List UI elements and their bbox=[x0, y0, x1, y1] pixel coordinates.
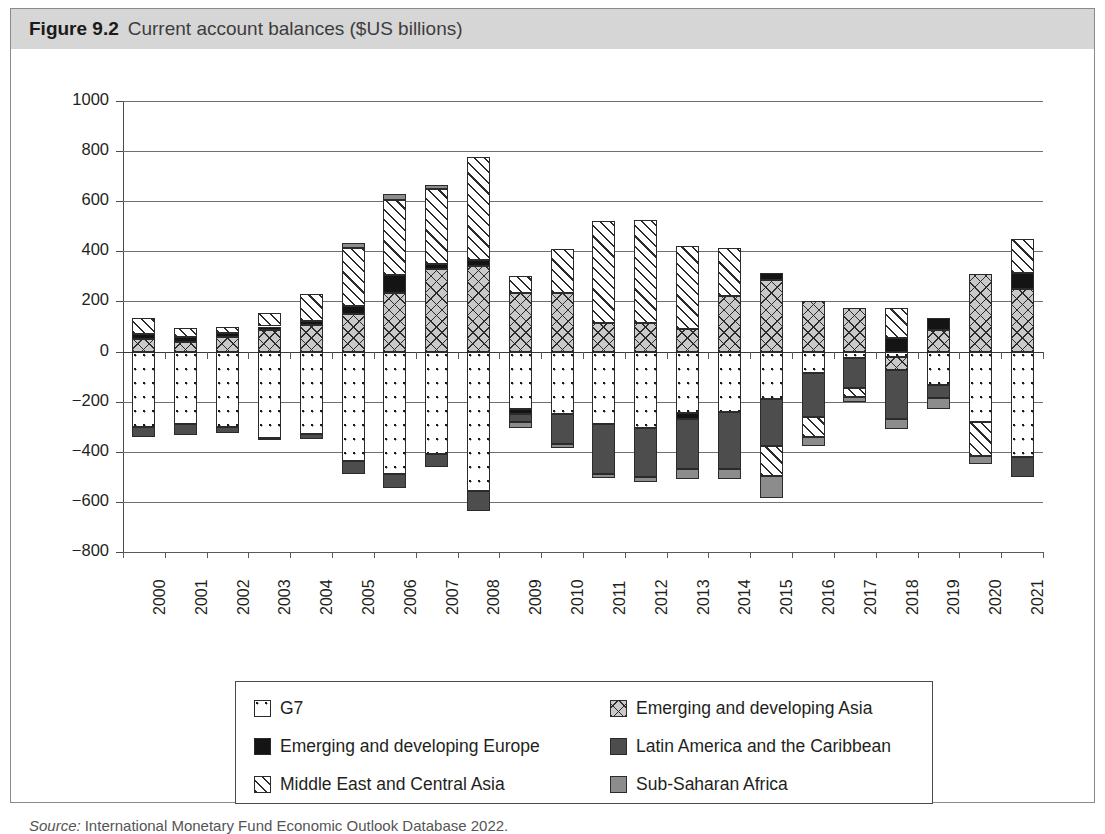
legend-item-meca: Middle East and Central Asia bbox=[254, 774, 505, 795]
bar-segment-asia bbox=[927, 330, 950, 351]
bar-segment-ssa bbox=[843, 397, 866, 402]
bar-segment-asia bbox=[718, 296, 741, 351]
bar-segment-europe bbox=[760, 273, 783, 281]
bar-segment-latam bbox=[342, 461, 365, 475]
bar-segment-g7 bbox=[634, 352, 657, 428]
bar-segment-meca bbox=[969, 422, 992, 456]
legend-swatch-ssa-icon bbox=[610, 776, 627, 793]
x-axis-label-2007: 2007 bbox=[444, 579, 462, 615]
bar-segment-europe bbox=[383, 275, 406, 293]
legend-item-latam: Latin America and the Caribbean bbox=[610, 736, 891, 757]
legend-swatch-meca-icon bbox=[254, 776, 271, 793]
chart-plot: −800−600−400−20002004006008001000 200020… bbox=[123, 101, 1043, 552]
bar-segment-g7 bbox=[509, 352, 532, 410]
y-axis-line bbox=[123, 101, 124, 552]
bar-segment-ssa bbox=[592, 474, 615, 478]
bar-group-2011 bbox=[592, 101, 615, 552]
bar-segment-meca bbox=[843, 388, 866, 397]
x-axis-label-2021: 2021 bbox=[1029, 579, 1047, 615]
bar-segment-latam bbox=[551, 414, 574, 444]
bar-segment-g7 bbox=[425, 352, 448, 455]
bar-segment-latam bbox=[425, 454, 448, 467]
bar-segment-latam bbox=[802, 373, 825, 417]
bar-group-2013 bbox=[676, 101, 699, 552]
x-axis-tick-zero bbox=[207, 352, 208, 359]
bar-segment-g7 bbox=[174, 352, 197, 425]
bar-segment-g7 bbox=[760, 352, 783, 400]
bar-segment-ssa bbox=[551, 444, 574, 448]
x-axis-tick-zero bbox=[248, 352, 249, 359]
x-axis-label-2018: 2018 bbox=[904, 579, 922, 615]
bar-segment-asia bbox=[592, 323, 615, 352]
bar-segment-latam bbox=[760, 399, 783, 445]
legend-label: Emerging and developing Europe bbox=[280, 736, 540, 757]
x-axis-line bbox=[123, 552, 1043, 553]
bar-segment-asia bbox=[342, 314, 365, 352]
figure-title: Figure 9.2Current account balances ($US … bbox=[29, 18, 463, 40]
bar-segment-asia bbox=[802, 301, 825, 351]
bar-segment-meca bbox=[300, 294, 323, 322]
x-axis-tick-zero bbox=[750, 352, 751, 359]
bar-group-2010 bbox=[551, 101, 574, 552]
bar-segment-meca bbox=[383, 200, 406, 275]
bar-segment-asia bbox=[258, 330, 281, 351]
bar-segment-meca bbox=[174, 328, 197, 337]
x-axis-tick-zero bbox=[792, 352, 793, 359]
x-axis-label-2009: 2009 bbox=[527, 579, 545, 615]
bar-group-2017 bbox=[843, 101, 866, 552]
legend-swatch-europe-icon bbox=[254, 738, 271, 755]
bar-group-2002 bbox=[216, 101, 239, 552]
bar-segment-ssa bbox=[969, 456, 992, 465]
x-axis-tick-zero bbox=[708, 352, 709, 359]
bar-segment-meca bbox=[342, 248, 365, 307]
bar-segment-g7 bbox=[676, 352, 699, 413]
x-axis-label-2008: 2008 bbox=[485, 579, 503, 615]
y-axis-tick-label: −400 bbox=[47, 441, 109, 460]
y-axis-tick-mark bbox=[116, 301, 123, 302]
bar-segment-latam bbox=[300, 434, 323, 439]
x-axis-tick-zero bbox=[959, 352, 960, 359]
figure-container: Figure 9.2Current account balances ($US … bbox=[10, 8, 1095, 803]
bar-segment-g7 bbox=[592, 352, 615, 425]
x-axis-label-2016: 2016 bbox=[820, 579, 838, 615]
legend-label: Latin America and the Caribbean bbox=[636, 736, 891, 757]
bar-group-2014 bbox=[718, 101, 741, 552]
bar-segment-asia bbox=[634, 323, 657, 352]
bar-segment-europe bbox=[1011, 273, 1034, 289]
bar-segment-ssa bbox=[885, 419, 908, 429]
x-axis-label-2004: 2004 bbox=[318, 579, 336, 615]
bar-group-2018 bbox=[885, 101, 908, 552]
x-axis-label-2012: 2012 bbox=[653, 579, 671, 615]
x-axis-tick-zero bbox=[583, 352, 584, 359]
bar-group-2019 bbox=[927, 101, 950, 552]
x-axis-label-2014: 2014 bbox=[736, 579, 754, 615]
bar-group-2007 bbox=[425, 101, 448, 552]
bar-segment-ssa bbox=[927, 398, 950, 409]
bar-segment-asia bbox=[676, 329, 699, 352]
bar-segment-meca bbox=[132, 318, 155, 334]
legend-swatch-asia-icon bbox=[610, 700, 627, 717]
x-axis-label-2011: 2011 bbox=[611, 581, 629, 615]
bar-segment-europe bbox=[258, 327, 281, 331]
bar-group-2004 bbox=[300, 101, 323, 552]
bar-segment-meca bbox=[467, 157, 490, 260]
bar-segment-asia bbox=[1011, 289, 1034, 352]
bar-segment-europe bbox=[467, 260, 490, 266]
y-axis-tick-mark bbox=[116, 151, 123, 152]
bar-segment-latam bbox=[885, 370, 908, 419]
x-axis-label-2001: 2001 bbox=[193, 579, 211, 615]
y-axis-tick-mark bbox=[116, 201, 123, 202]
bar-segment-asia bbox=[300, 325, 323, 351]
x-axis-tick-zero bbox=[625, 352, 626, 359]
x-axis-tick-zero bbox=[918, 352, 919, 359]
y-axis-tick-label: 1000 bbox=[47, 90, 109, 109]
bar-segment-latam bbox=[258, 438, 281, 441]
x-axis-tick bbox=[1043, 552, 1044, 558]
bar-segment-latam bbox=[216, 427, 239, 433]
bar-segment-europe bbox=[927, 318, 950, 331]
y-axis-tick-mark bbox=[116, 352, 123, 353]
bar-segment-latam bbox=[634, 428, 657, 477]
y-axis-tick-mark bbox=[116, 101, 123, 102]
bar-segment-europe bbox=[342, 306, 365, 314]
bar-segment-g7 bbox=[216, 352, 239, 427]
